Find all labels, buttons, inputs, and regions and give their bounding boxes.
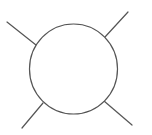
- diagram-canvas: [0, 0, 152, 135]
- bottom-left-line: [22, 103, 43, 128]
- central-circle: [30, 24, 118, 114]
- top-left-line: [7, 22, 36, 45]
- top-right-line: [105, 12, 128, 37]
- bottom-right-line: [104, 101, 132, 125]
